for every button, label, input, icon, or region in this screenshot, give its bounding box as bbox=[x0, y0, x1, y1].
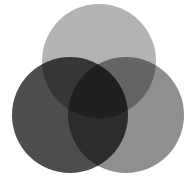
venn-circle-right bbox=[68, 57, 184, 173]
venn-diagram bbox=[0, 0, 193, 183]
